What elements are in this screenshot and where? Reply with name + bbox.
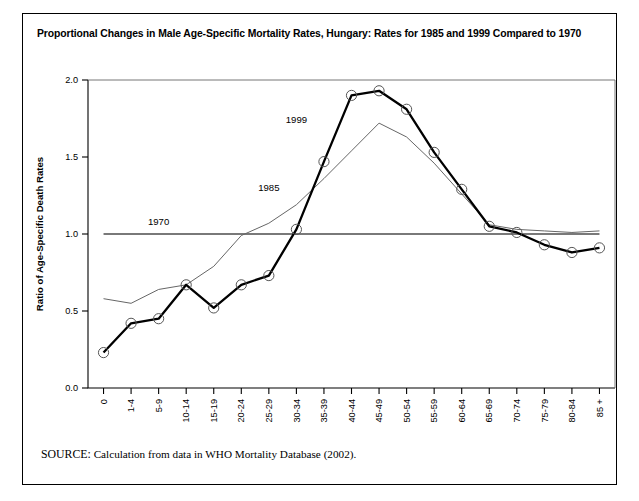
y-tick-label: 1.5 bbox=[65, 152, 78, 162]
data-point-marker bbox=[291, 224, 301, 234]
data-point-marker bbox=[264, 270, 274, 280]
y-tick-label: 0.5 bbox=[65, 306, 78, 316]
x-tick-label: 65-69 bbox=[484, 399, 494, 423]
y-tick-label: 2.0 bbox=[65, 75, 78, 85]
x-tick-label: 35-39 bbox=[319, 399, 329, 423]
chart-title: Proportional Changes in Male Age-Specifi… bbox=[37, 27, 607, 40]
data-point-marker bbox=[319, 157, 329, 167]
x-tick-label: 55-59 bbox=[429, 399, 439, 423]
x-tick-label: 60-64 bbox=[457, 399, 467, 423]
y-tick-label: 0.0 bbox=[65, 383, 78, 393]
x-tick-label: 0 bbox=[99, 399, 109, 404]
data-point-marker bbox=[154, 314, 164, 324]
data-point-marker bbox=[512, 227, 522, 237]
y-axis-title: Ratio of Age-Specific Death Rates bbox=[34, 157, 45, 311]
data-point-marker bbox=[594, 243, 604, 253]
x-tick-label: 75-79 bbox=[540, 399, 550, 423]
data-point-marker bbox=[209, 303, 219, 313]
data-point-marker bbox=[457, 184, 467, 194]
chart-plot-area: 0.00.51.01.52.0Ratio of Age-Specific Dea… bbox=[23, 42, 618, 442]
x-tick-label: 85 + bbox=[595, 399, 605, 417]
y-tick-label: 1.0 bbox=[65, 229, 78, 239]
source-label: SOURCE: bbox=[41, 447, 91, 461]
data-point-marker bbox=[402, 104, 412, 114]
series-annotation-1999: 1999 bbox=[286, 114, 307, 125]
data-point-marker bbox=[429, 147, 439, 157]
data-point-marker bbox=[539, 240, 549, 250]
x-tick-label: 10-14 bbox=[181, 399, 191, 423]
data-point-marker bbox=[236, 280, 246, 290]
x-tick-label: 40-44 bbox=[347, 399, 357, 423]
x-tick-label: 30-34 bbox=[292, 399, 302, 423]
x-tick-label: 1-4 bbox=[126, 399, 136, 412]
x-tick-label: 80-84 bbox=[567, 399, 577, 423]
data-point-marker bbox=[98, 347, 108, 357]
series-line-1985 bbox=[104, 123, 600, 303]
x-tick-label: 70-74 bbox=[512, 399, 522, 423]
data-point-marker bbox=[181, 280, 191, 290]
data-point-marker bbox=[126, 318, 136, 328]
x-tick-label: 25-29 bbox=[264, 399, 274, 423]
figure-panel: Proportional Changes in Male Age-Specifi… bbox=[22, 13, 617, 485]
x-tick-label: 5-9 bbox=[154, 399, 164, 412]
series-line-1999 bbox=[104, 91, 600, 353]
series-annotation-1985: 1985 bbox=[258, 182, 279, 193]
x-tick-label: 15-19 bbox=[209, 399, 219, 423]
mortality-ratio-line-chart: 0.00.51.01.52.0Ratio of Age-Specific Dea… bbox=[23, 42, 618, 442]
source-note: SOURCE: Calculation from data in WHO Mor… bbox=[41, 447, 356, 462]
data-point-marker bbox=[374, 86, 384, 96]
source-text: Calculation from data in WHO Mortality D… bbox=[94, 448, 357, 460]
data-point-marker bbox=[567, 247, 577, 257]
x-tick-label: 20-24 bbox=[236, 399, 246, 423]
x-tick-label: 50-54 bbox=[402, 399, 412, 423]
x-tick-label: 45-49 bbox=[374, 399, 384, 423]
data-point-marker bbox=[484, 221, 494, 231]
data-point-marker bbox=[346, 90, 356, 100]
series-annotation-1970: 1970 bbox=[148, 216, 169, 227]
